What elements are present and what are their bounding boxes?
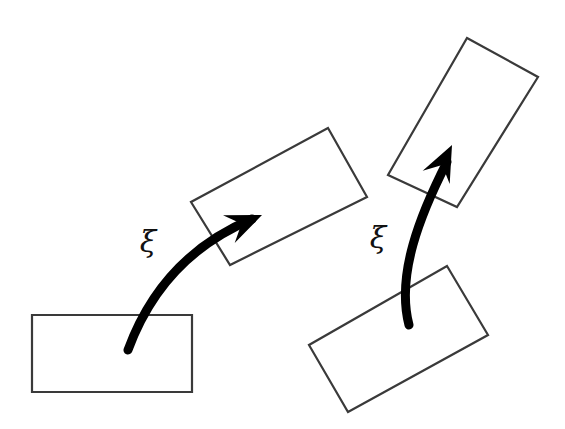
xi-label-right: ξ — [370, 220, 388, 255]
xi-label-left: ξ — [140, 224, 158, 259]
figure-svg: ξ ξ — [0, 0, 565, 429]
figure-canvas: ξ ξ — [0, 0, 565, 429]
figure-background — [0, 0, 565, 429]
